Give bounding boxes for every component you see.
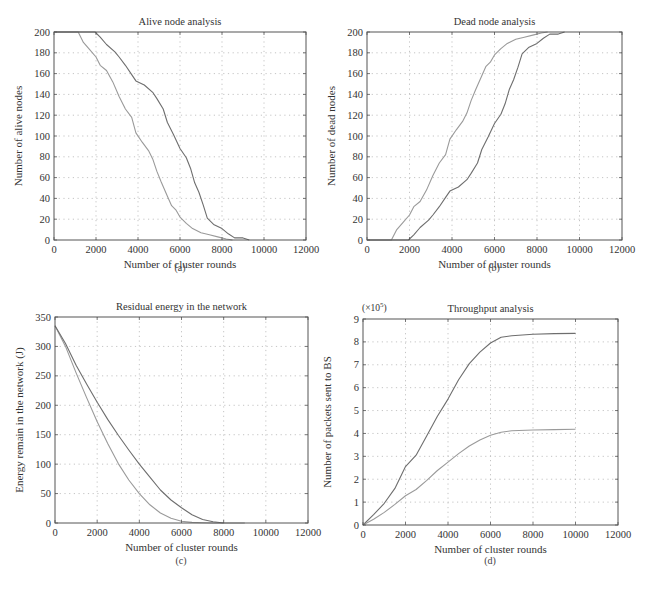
chart-svg: 0200040006000800010000120000204060801001… <box>320 0 653 290</box>
svg-text:40: 40 <box>40 193 51 204</box>
svg-text:40: 40 <box>353 193 364 204</box>
svg-text:4000: 4000 <box>442 244 463 255</box>
svg-text:200: 200 <box>34 27 50 38</box>
y-axis-multiplier: (×105) <box>362 301 387 314</box>
grid-lines <box>363 319 618 525</box>
x-axis-label: Number of cluster rounds <box>125 541 238 553</box>
data-series-dark <box>363 333 576 525</box>
y-axis-label: Energy remain in the network (J) <box>13 347 26 493</box>
svg-text:0: 0 <box>360 529 365 540</box>
svg-text:120: 120 <box>34 110 50 121</box>
svg-text:4000: 4000 <box>438 529 459 540</box>
svg-text:2000: 2000 <box>87 527 108 538</box>
chart-svg: 0200040006000800010000120000501001502002… <box>0 295 330 589</box>
svg-text:12000: 12000 <box>295 527 321 538</box>
svg-text:60: 60 <box>353 172 364 183</box>
x-tick-labels: 020004000600080001000012000 <box>364 32 635 255</box>
svg-text:0: 0 <box>52 527 57 538</box>
y-tick-labels: 020406080100120140160180200 <box>34 27 306 246</box>
svg-text:6000: 6000 <box>480 529 501 540</box>
svg-text:8000: 8000 <box>212 244 233 255</box>
svg-text:8000: 8000 <box>527 244 548 255</box>
svg-text:6000: 6000 <box>171 527 192 538</box>
svg-text:20: 20 <box>40 214 51 225</box>
svg-text:200: 200 <box>35 400 51 411</box>
svg-text:60: 60 <box>40 172 51 183</box>
y-axis-label: Number of dead nodes <box>325 86 337 186</box>
x-tick-labels: 020004000600080001000012000 <box>51 32 319 255</box>
chart-title: Dead node analysis <box>454 16 536 27</box>
chart-panel-throughput: 0200040006000800010000120000123456789Thr… <box>320 295 653 589</box>
svg-text:100: 100 <box>35 459 51 470</box>
caption-a: (a) <box>160 262 200 273</box>
caption-d: (d) <box>470 555 510 566</box>
svg-text:100: 100 <box>34 131 50 142</box>
svg-text:0: 0 <box>358 235 363 246</box>
svg-text:2000: 2000 <box>86 244 107 255</box>
svg-text:3: 3 <box>354 451 359 462</box>
svg-text:1: 1 <box>354 497 359 508</box>
svg-text:300: 300 <box>35 341 51 352</box>
svg-text:12000: 12000 <box>605 529 631 540</box>
svg-text:160: 160 <box>347 68 363 79</box>
svg-text:2: 2 <box>354 474 359 485</box>
chart-svg: 0200040006000800010000120000204060801001… <box>0 0 330 290</box>
svg-text:6: 6 <box>354 382 359 393</box>
svg-text:120: 120 <box>347 110 363 121</box>
svg-text:8000: 8000 <box>213 527 234 538</box>
svg-text:0: 0 <box>45 235 50 246</box>
svg-text:4000: 4000 <box>129 527 150 538</box>
svg-text:140: 140 <box>34 89 50 100</box>
y-axis-label: Number of alive nodes <box>12 86 24 187</box>
y-tick-labels: 050100150200250300350 <box>35 312 308 529</box>
svg-text:80: 80 <box>353 151 364 162</box>
svg-text:2000: 2000 <box>395 529 416 540</box>
svg-text:160: 160 <box>34 68 50 79</box>
svg-text:140: 140 <box>347 89 363 100</box>
svg-text:250: 250 <box>35 370 51 381</box>
y-axis-label: Number of packets sent to BS <box>321 356 333 488</box>
svg-text:0: 0 <box>46 518 51 529</box>
grid-lines <box>367 32 622 240</box>
svg-text:180: 180 <box>34 47 50 58</box>
svg-text:12000: 12000 <box>293 244 319 255</box>
svg-text:350: 350 <box>35 312 51 323</box>
chart-panel-residual-energy: 0200040006000800010000120000501001502002… <box>0 295 330 589</box>
svg-text:200: 200 <box>347 27 363 38</box>
data-series-light <box>54 32 233 240</box>
svg-text:2000: 2000 <box>399 244 420 255</box>
svg-text:150: 150 <box>35 429 51 440</box>
svg-text:20: 20 <box>353 214 364 225</box>
caption-c: (c) <box>161 555 201 566</box>
svg-text:9: 9 <box>354 314 359 325</box>
chart-title: Residual energy in the network <box>116 301 248 312</box>
x-axis-label: Number of cluster rounds <box>434 543 547 555</box>
svg-text:80: 80 <box>40 151 51 162</box>
chart-panel-dead-nodes: 0200040006000800010000120000204060801001… <box>320 0 653 290</box>
svg-text:180: 180 <box>347 47 363 58</box>
chart-panel-alive-nodes: 0200040006000800010000120000204060801001… <box>0 0 330 290</box>
svg-text:7: 7 <box>354 359 359 370</box>
x-tick-labels: 020004000600080001000012000 <box>360 319 631 540</box>
svg-text:50: 50 <box>41 488 52 499</box>
svg-text:6000: 6000 <box>484 244 505 255</box>
grid-lines <box>54 32 306 240</box>
y-tick-labels: 0123456789 <box>354 314 618 531</box>
data-series-light <box>363 429 576 525</box>
svg-text:4000: 4000 <box>128 244 149 255</box>
svg-text:8000: 8000 <box>523 529 544 540</box>
svg-text:10000: 10000 <box>253 527 279 538</box>
svg-text:8: 8 <box>354 336 359 347</box>
svg-text:0: 0 <box>51 244 56 255</box>
svg-text:100: 100 <box>347 131 363 142</box>
chart-title: Throughput analysis <box>447 303 533 314</box>
svg-text:4: 4 <box>354 428 360 439</box>
svg-text:0: 0 <box>364 244 369 255</box>
svg-text:12000: 12000 <box>609 244 635 255</box>
chart-title: Alive node analysis <box>139 16 222 27</box>
svg-text:10000: 10000 <box>251 244 277 255</box>
svg-text:10000: 10000 <box>562 529 588 540</box>
svg-text:6000: 6000 <box>170 244 191 255</box>
chart-svg: 0200040006000800010000120000123456789Thr… <box>320 295 653 589</box>
grid-lines <box>55 317 308 523</box>
